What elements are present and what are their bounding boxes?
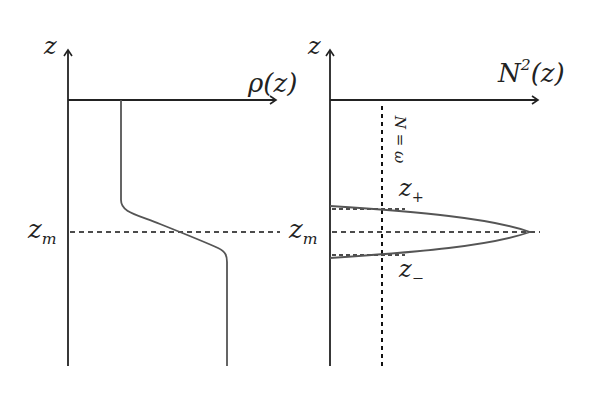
right-zm-label: zm <box>289 216 318 242</box>
left-z-axis-label: z <box>44 34 57 58</box>
right-z-axis-label: z <box>308 34 321 58</box>
right-n2-axis-label: N2(z) <box>498 60 565 86</box>
right-panel <box>330 50 540 366</box>
density-profile-curve <box>121 100 227 366</box>
left-rho-axis-label: ρ(z) <box>248 70 297 96</box>
z-plus-label: z+ <box>399 176 424 200</box>
n-equals-omega-label: N = ω <box>392 116 407 163</box>
z-minus-label: z− <box>399 257 424 281</box>
left-zm-label: zm <box>28 216 57 242</box>
